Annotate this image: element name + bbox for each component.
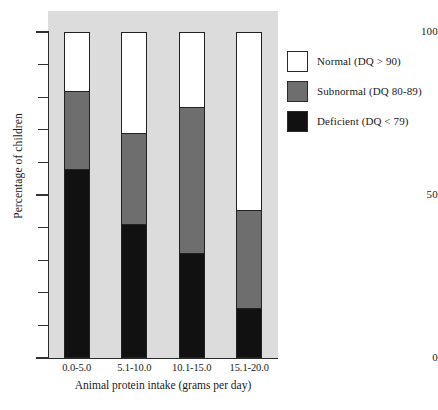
bar-segment-subnormal [180, 107, 204, 253]
y-axis-minor-tick [38, 64, 48, 65]
legend-label: Deficient (DQ < 79) [317, 115, 409, 128]
y-axis-minor-tick [38, 325, 48, 326]
bar-segment-normal [237, 33, 261, 210]
bar-stack [121, 32, 147, 358]
x-axis-category-label: 15.1-20.0 [212, 362, 286, 374]
bar-segment-normal [65, 33, 89, 91]
y-axis-major-tick [36, 194, 48, 196]
bars-layer [48, 32, 278, 358]
y-axis-minor-tick [38, 292, 48, 293]
legend-swatch-gray [287, 81, 308, 102]
legend-item: Deficient (DQ < 79) [287, 106, 437, 136]
caption-fragment [20, 402, 430, 410]
x-axis-title: Animal protein intake (grams per day) [48, 379, 278, 391]
y-axis-minor-tick [38, 97, 48, 98]
y-axis-minor-tick [38, 227, 48, 228]
bar-segment-normal [180, 33, 204, 107]
y-axis-major-tick [36, 31, 48, 33]
legend-label: Subnormal (DQ 80-89) [317, 85, 422, 98]
y-axis-tick-label: 50 [406, 189, 438, 200]
stacked-bar-chart-figure: 100500 Percentage of children 0.0-5.05.1… [0, 0, 438, 410]
y-axis-minor-tick [38, 260, 48, 261]
legend-swatch-black [287, 111, 308, 132]
bar-stack [64, 32, 90, 358]
x-axis-line [40, 358, 278, 359]
legend-item: Subnormal (DQ 80-89) [287, 76, 437, 106]
legend-item: Normal (DQ > 90) [287, 46, 437, 76]
legend-swatch-white [287, 51, 308, 72]
chart-legend: Normal (DQ > 90)Subnormal (DQ 80-89)Defi… [287, 46, 437, 136]
bar-segment-normal [122, 33, 146, 133]
bar-segment-deficient [122, 224, 146, 357]
legend-label: Normal (DQ > 90) [317, 55, 401, 68]
bar-stack [179, 32, 205, 358]
y-axis-major-tick [36, 357, 48, 359]
bar-segment-subnormal [122, 133, 146, 224]
y-axis-minor-tick [38, 162, 48, 163]
bar-segment-deficient [65, 169, 89, 357]
y-axis-tick-label: 100 [406, 26, 438, 37]
y-axis-minor-tick [38, 129, 48, 130]
bar-segment-subnormal [65, 91, 89, 169]
y-axis-tick-label: 0 [406, 352, 438, 363]
bar-segment-deficient [180, 253, 204, 357]
bar-segment-deficient [237, 308, 261, 357]
y-axis-title: Percentage of children [12, 86, 24, 246]
bar-segment-subnormal [237, 210, 261, 308]
bar-stack [236, 32, 262, 358]
